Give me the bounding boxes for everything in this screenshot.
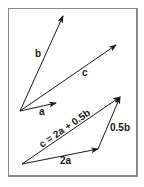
label-half-b: 0.5b [110,122,130,133]
top-vector-group: b c a [20,16,116,117]
label-b: b [35,48,41,59]
label-equation: c = 2a + 0.5b [37,107,92,150]
vector-diagram: b c a c = 2a + 0.5b 0.5b 2a [0,0,144,187]
label-2a: 2a [60,155,72,166]
label-c: c [82,67,88,78]
label-a: a [39,106,45,117]
